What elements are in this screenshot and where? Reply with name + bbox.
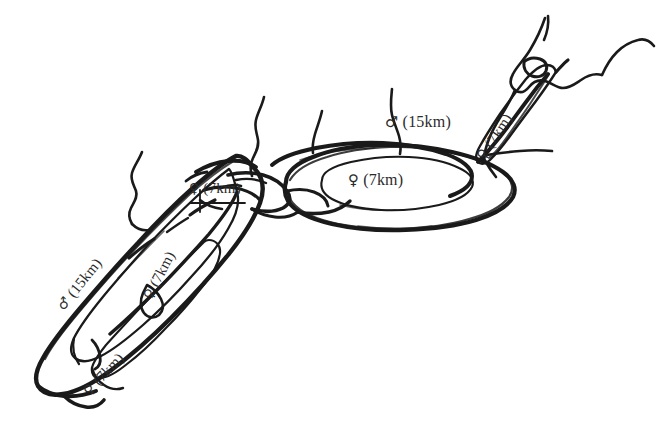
figure-background — [0, 0, 658, 436]
territory-map-figure — [0, 0, 658, 436]
